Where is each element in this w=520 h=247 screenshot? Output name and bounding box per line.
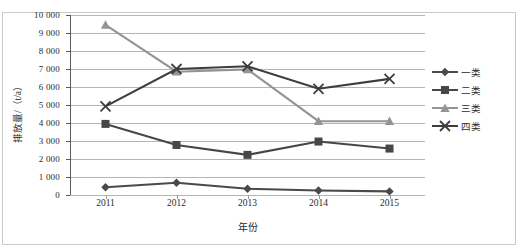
series-line [106,124,390,155]
legend-swatch-triangle-icon [432,103,458,113]
series-三类 [101,20,394,125]
data-point-square [441,86,449,94]
x-tick-label: 2011 [96,198,115,208]
y-tick-label: 3 000 [39,137,60,146]
data-point-square [315,138,323,146]
data-point-triangle [101,20,110,29]
data-point-diamond [314,186,322,194]
y-tick-mark [66,195,70,196]
data-point-diamond [243,185,251,193]
y-tick-label: 2 000 [39,155,60,164]
plot-area [70,15,425,195]
data-point-diamond [101,183,109,191]
legend-swatch-square-icon [432,85,458,95]
y-axis-title: 排放量/（t/a） [10,67,24,157]
line-chart: 10 0009 0008 0007 0006 0005 0004 0003 00… [0,0,520,247]
legend-label: 四类 [461,119,481,133]
data-point-cross [440,121,450,131]
y-tick-label: 8 000 [39,47,60,56]
y-tick-label: 0 [55,191,60,200]
legend-swatch-diamond-icon [432,67,458,77]
data-point-square [173,141,181,149]
x-tick-label: 2013 [238,198,257,208]
legend-item-一类[interactable]: 一类 [432,63,514,81]
x-tick-label: 2012 [167,198,186,208]
legend-swatch-cross-icon [432,121,458,131]
data-point-diamond [385,187,393,195]
series-二类 [102,120,394,159]
data-point-square [244,151,252,159]
series-一类 [101,179,393,196]
y-tick-label: 10 000 [34,11,60,20]
data-point-diamond [441,68,449,76]
legend-label: 一类 [461,65,481,79]
legend-label: 二类 [461,83,481,97]
legend-item-四类[interactable]: 四类 [432,117,514,135]
y-tick-label: 4 000 [39,119,60,128]
data-point-square [102,120,110,128]
y-tick-label: 9 000 [39,29,60,38]
chart-legend: 一类二类三类四类 [432,63,514,135]
series-layer [70,15,425,195]
y-tick-label: 1 000 [39,173,60,182]
x-axis-tick-labels: 20112012201320142015 [70,198,425,212]
x-tick-label: 2015 [380,198,399,208]
data-point-diamond [172,179,180,187]
data-point-triangle [440,103,449,112]
legend-item-三类[interactable]: 三类 [432,99,514,117]
x-axis-title: 年份 [70,219,425,234]
data-point-cross [101,101,111,111]
x-tick-label: 2014 [309,198,328,208]
legend-item-二类[interactable]: 二类 [432,81,514,99]
data-point-square [386,145,394,153]
y-tick-label: 5 000 [39,101,60,110]
y-tick-label: 6 000 [39,83,60,92]
legend-label: 三类 [461,101,481,115]
y-tick-label: 7 000 [39,65,60,74]
